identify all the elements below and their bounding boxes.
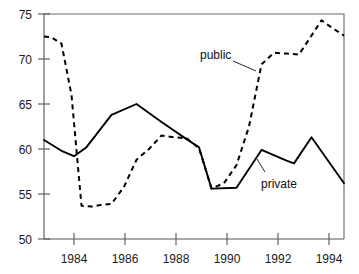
line-chart: 75 70 65 60 55 50 1984 1986 1988 1990 19… xyxy=(0,0,359,274)
y-tick-label-75: 75 xyxy=(19,8,33,22)
x-tick-label-1988: 1988 xyxy=(163,252,190,266)
y-tick-label-65: 65 xyxy=(19,98,33,112)
x-tick-label-1992: 1992 xyxy=(265,252,292,266)
series-annotation-public: public xyxy=(200,48,231,62)
x-tick-label-1990: 1990 xyxy=(214,252,241,266)
y-tick-label-55: 55 xyxy=(19,188,33,202)
x-tick-label-1986: 1986 xyxy=(112,252,139,266)
public-leader-line xyxy=(233,61,256,71)
y-tick-label-70: 70 xyxy=(19,53,33,67)
private-leader-line xyxy=(257,159,265,172)
series-annotation-private: private xyxy=(261,177,297,191)
chart-container: 75 70 65 60 55 50 1984 1986 1988 1990 19… xyxy=(0,0,359,274)
series-line-private xyxy=(44,104,344,189)
y-tick-label-50: 50 xyxy=(19,233,33,247)
series-line-public xyxy=(44,20,344,206)
x-tick-label-1984: 1984 xyxy=(61,252,88,266)
y-tick-label-60: 60 xyxy=(19,143,33,157)
plot-frame-top-right xyxy=(44,14,344,239)
x-tick-label-1994: 1994 xyxy=(316,252,343,266)
